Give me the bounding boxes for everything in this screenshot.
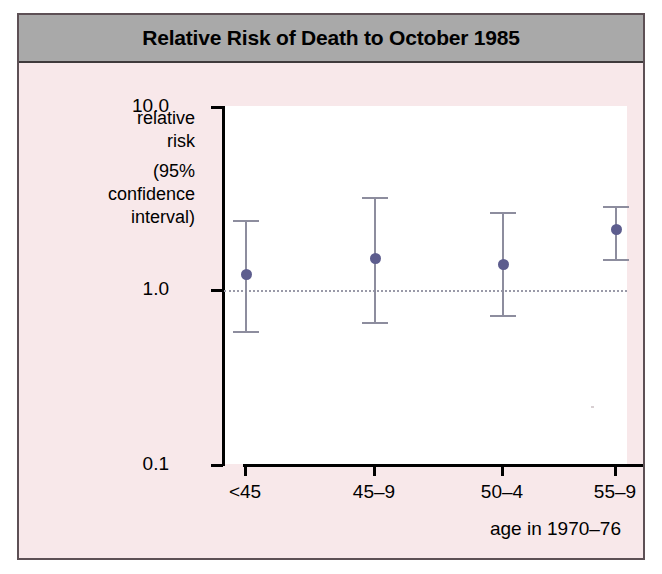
data-point-0 [241, 269, 252, 280]
y-tick-0.1 [211, 464, 223, 467]
data-point-3 [611, 224, 622, 235]
y-axis-label-line-2: risk [47, 130, 195, 153]
y-axis-label-line-3: (95% [47, 160, 195, 183]
x-tick-label-0: <45 [185, 481, 305, 503]
y-tick-label-0.1: 0.1 [49, 453, 169, 475]
chart-title-bar: Relative Risk of Death to October 1985 [19, 15, 643, 63]
y-axis-label: relative risk (95% confidence interval) [47, 107, 195, 229]
y-tick-1 [211, 289, 223, 292]
error-bar-cap-upper-0 [233, 220, 259, 222]
data-point-1 [370, 253, 381, 264]
x-axis-line [243, 464, 643, 467]
error-bar-cap-lower-1 [362, 322, 388, 324]
page-speck [591, 406, 594, 408]
x-tick-label-3: 55–9 [555, 481, 662, 503]
error-bar-cap-upper-1 [362, 197, 388, 199]
y-axis-line [222, 106, 225, 466]
plot-area [224, 106, 627, 464]
error-bar-cap-upper-2 [490, 212, 516, 214]
error-bar-cap-upper-3 [603, 206, 629, 208]
page-title: Relative Risk of Death to October 1985 [142, 26, 520, 50]
data-point-2 [498, 259, 509, 270]
x-tick-2 [501, 464, 504, 476]
y-tick-10 [211, 106, 223, 109]
figure-panel: Relative Risk of Death to October 1985 r… [17, 13, 645, 560]
y-axis-label-line-5: interval) [47, 206, 195, 229]
reference-line-1.0 [224, 290, 627, 292]
x-axis-label: age in 1970–76 [490, 518, 621, 540]
plot-container: relative risk (95% confidence interval) … [19, 63, 643, 560]
error-bar-cap-lower-0 [233, 331, 259, 333]
x-tick-label-2: 50–4 [442, 481, 562, 503]
x-tick-3 [614, 464, 617, 476]
y-tick-label-1: 1.0 [49, 278, 169, 300]
x-tick-label-1: 45–9 [314, 481, 434, 503]
x-tick-0 [244, 464, 247, 476]
error-bar-cap-lower-2 [490, 315, 516, 317]
x-tick-1 [373, 464, 376, 476]
y-axis-label-line-4: confidence [47, 183, 195, 206]
y-tick-label-10: 10.0 [49, 95, 169, 117]
error-bar-cap-lower-3 [603, 259, 629, 261]
